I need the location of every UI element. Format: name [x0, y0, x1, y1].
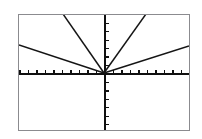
graph-line-steep-left	[63, 15, 104, 73]
graph-line-steep-right	[104, 15, 146, 73]
graph-canvas	[19, 15, 189, 130]
graph-line-shallow-left	[19, 45, 104, 73]
graph-line-shallow-right	[104, 46, 189, 73]
plot-frame	[18, 14, 190, 131]
calculator-screen	[0, 0, 202, 139]
